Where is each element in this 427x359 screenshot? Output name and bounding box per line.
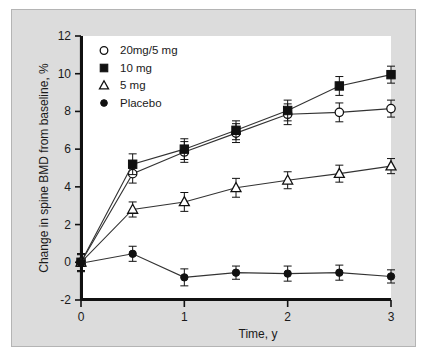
chart-svg: -2024681012 0123 20mg/5 mg10 mg5 mgPlace… xyxy=(0,0,427,359)
data-point-open-circle xyxy=(335,108,343,116)
y-tick-label: 8 xyxy=(64,104,71,118)
data-point-filled-square xyxy=(335,82,343,90)
data-point-filled-circle xyxy=(77,260,84,267)
data-point-filled-circle xyxy=(181,274,188,281)
data-point-filled-square xyxy=(232,126,240,134)
data-point-filled-circle xyxy=(129,250,136,257)
data-point-filled-circle xyxy=(232,269,239,276)
series-3 xyxy=(77,246,395,286)
legend-label: Placebo xyxy=(120,97,162,109)
y-tick-label: 0 xyxy=(64,255,71,269)
y-tick-label: 2 xyxy=(64,218,71,232)
data-point-filled-circle xyxy=(101,100,108,107)
data-point-filled-square xyxy=(387,70,395,78)
y-tick-label: 10 xyxy=(58,67,72,81)
legend-entry-3: Placebo xyxy=(101,97,162,109)
data-point-open-triangle xyxy=(99,81,108,89)
y-axis-title: Change in spine BMD from baseline, % xyxy=(37,63,51,273)
legend-label: 10 mg xyxy=(120,62,152,74)
data-point-filled-square xyxy=(283,106,291,114)
chart-legend: 20mg/5 mg10 mg5 mgPlacebo xyxy=(99,44,177,109)
legend-label: 5 mg xyxy=(120,79,146,91)
legend-entry-0: 20mg/5 mg xyxy=(100,44,177,56)
y-tick-label: -2 xyxy=(60,293,71,307)
data-point-filled-circle xyxy=(336,269,343,276)
x-tick-label: 2 xyxy=(284,310,291,324)
data-point-open-triangle xyxy=(386,161,396,170)
data-point-filled-circle xyxy=(284,270,291,277)
legend-label: 20mg/5 mg xyxy=(120,44,178,56)
data-point-open-circle xyxy=(387,104,395,112)
series-2 xyxy=(76,159,396,271)
x-axis: 0123 xyxy=(78,300,395,324)
legend-entry-2: 5 mg xyxy=(99,79,145,91)
x-tick-label: 1 xyxy=(181,310,188,324)
data-point-filled-circle xyxy=(387,273,394,280)
data-point-filled-square xyxy=(100,64,108,72)
y-tick-label: 4 xyxy=(64,180,71,194)
x-tick-label: 3 xyxy=(388,310,395,324)
figure: -2024681012 0123 20mg/5 mg10 mg5 mgPlace… xyxy=(0,0,427,359)
data-point-filled-square xyxy=(128,160,136,168)
legend-entry-1: 10 mg xyxy=(100,62,152,74)
data-point-filled-square xyxy=(180,145,188,153)
y-tick-label: 12 xyxy=(58,29,72,43)
x-tick-label: 0 xyxy=(78,310,85,324)
data-point-open-circle xyxy=(100,47,108,55)
x-axis-title: Time, y xyxy=(239,327,278,341)
y-tick-label: 6 xyxy=(64,142,71,156)
